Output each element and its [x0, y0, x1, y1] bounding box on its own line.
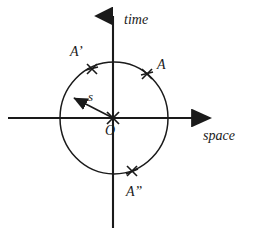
- interval-vector-label: s: [88, 90, 93, 103]
- marker-point-a: [141, 69, 153, 79]
- interval-vector-arrow: [74, 98, 113, 118]
- point-label-a: A: [157, 58, 166, 72]
- origin-label: O: [105, 124, 115, 138]
- space-axis-label: space: [203, 129, 235, 143]
- marker-point-a-prime: [86, 64, 98, 74]
- diagram-canvas: [0, 0, 254, 235]
- point-label-a-double-prime: A”: [126, 185, 142, 199]
- point-label-a-prime: A’: [70, 45, 83, 59]
- marker-point-a-double-prime: [126, 166, 138, 176]
- spacetime-diagram: time space O s A A’ A”: [0, 0, 254, 235]
- time-axis-label: time: [124, 13, 148, 27]
